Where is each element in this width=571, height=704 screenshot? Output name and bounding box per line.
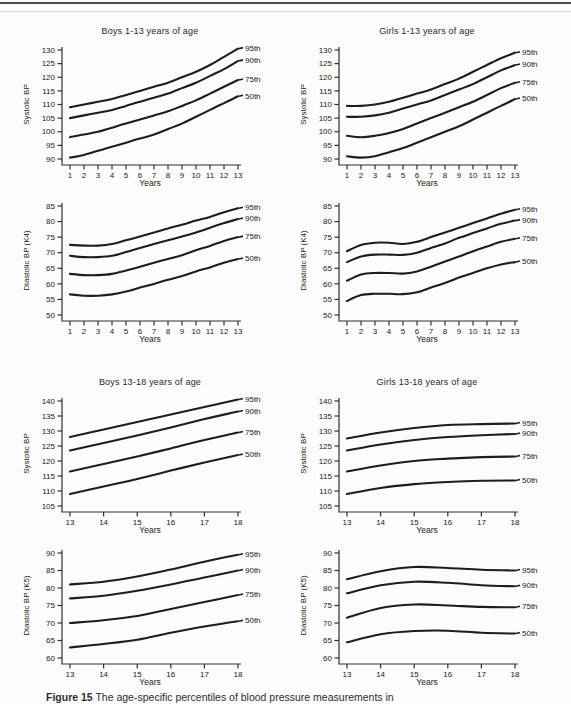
svg-text:3: 3 [96, 171, 101, 180]
svg-text:3: 3 [373, 171, 378, 180]
svg-text:50th: 50th [245, 254, 261, 263]
svg-text:Systolic BP: Systolic BP [299, 433, 308, 473]
svg-text:130: 130 [42, 46, 56, 55]
svg-text:16: 16 [443, 670, 452, 679]
svg-text:17: 17 [477, 670, 486, 679]
svg-text:95: 95 [46, 141, 55, 150]
svg-text:2: 2 [82, 171, 87, 180]
svg-text:120: 120 [319, 457, 333, 466]
svg-text:17: 17 [200, 518, 209, 527]
svg-text:Years: Years [416, 525, 437, 535]
svg-text:50th: 50th [522, 476, 538, 485]
svg-text:1: 1 [68, 327, 73, 336]
svg-text:14: 14 [99, 670, 108, 679]
svg-text:13: 13 [234, 171, 243, 180]
svg-text:Years: Years [139, 178, 160, 188]
svg-text:75: 75 [323, 233, 332, 242]
plot-boys-13-18-diastolic-k5: 60657075808590131415161718Diastolic BP (… [16, 542, 284, 688]
chart-title: Boys 1-13 years of age [16, 24, 284, 39]
svg-text:95th: 95th [245, 395, 261, 404]
svg-text:11: 11 [483, 327, 492, 336]
chart-boys-1-13-diastolic-k4: 505560657075808512345678910111213Diastol… [16, 195, 284, 345]
svg-text:130: 130 [42, 427, 56, 436]
svg-text:105: 105 [42, 502, 56, 511]
svg-text:2: 2 [359, 327, 364, 336]
plot-girls-13-18-diastolic-k5: 60657075808590131415161718Diastolic BP (… [293, 542, 561, 688]
svg-text:75th: 75th [522, 234, 538, 243]
svg-text:50th: 50th [522, 629, 538, 638]
svg-text:8: 8 [443, 171, 448, 180]
svg-text:5: 5 [401, 171, 406, 180]
svg-text:50th: 50th [245, 616, 261, 625]
top-rule [0, 2, 571, 4]
chart-boys-13-18-diastolic-k5: 60657075808590131415161718Diastolic BP (… [16, 542, 284, 688]
svg-text:75th: 75th [245, 590, 261, 599]
svg-text:5: 5 [124, 171, 129, 180]
svg-text:Years: Years [416, 677, 437, 687]
svg-text:9: 9 [457, 327, 462, 336]
svg-text:11: 11 [206, 327, 215, 336]
row-diastolic-k4-1-13: 505560657075808512345678910111213Diastol… [16, 195, 561, 345]
figure-caption: Figure 15 The age-specific percentiles o… [16, 690, 561, 704]
svg-text:50th: 50th [522, 94, 538, 103]
svg-text:95th: 95th [245, 203, 261, 212]
svg-text:60: 60 [323, 654, 332, 663]
svg-text:80: 80 [46, 217, 55, 226]
svg-text:12: 12 [220, 171, 229, 180]
svg-text:Diastolic BP (K4): Diastolic BP (K4) [299, 230, 308, 291]
plot-boys-1-13-systolic: 9095100105110115120125130123456789101112… [16, 39, 284, 189]
svg-text:70: 70 [323, 248, 332, 257]
svg-text:9: 9 [180, 327, 185, 336]
svg-text:90: 90 [323, 155, 332, 164]
svg-text:115: 115 [319, 472, 332, 481]
svg-text:115: 115 [319, 87, 332, 96]
svg-text:8: 8 [443, 327, 448, 336]
svg-text:105: 105 [42, 114, 56, 123]
svg-text:75th: 75th [522, 602, 538, 611]
svg-text:75th: 75th [522, 78, 538, 87]
svg-text:4: 4 [110, 327, 115, 336]
svg-text:2: 2 [82, 327, 87, 336]
svg-text:75th: 75th [522, 452, 538, 461]
svg-text:13: 13 [66, 670, 75, 679]
svg-text:70: 70 [46, 619, 55, 628]
svg-text:17: 17 [200, 670, 209, 679]
svg-text:65: 65 [46, 636, 55, 645]
svg-text:14: 14 [376, 670, 385, 679]
svg-text:17: 17 [477, 518, 486, 527]
svg-text:85: 85 [46, 202, 55, 211]
svg-text:1: 1 [345, 327, 350, 336]
svg-text:3: 3 [373, 327, 378, 336]
svg-text:Years: Years [139, 677, 160, 687]
svg-text:18: 18 [511, 518, 520, 527]
svg-text:95th: 95th [245, 550, 261, 559]
svg-text:120: 120 [42, 457, 56, 466]
svg-text:Systolic BP: Systolic BP [299, 84, 308, 124]
svg-text:90th: 90th [522, 429, 538, 438]
svg-text:Diastolic BP (K5): Diastolic BP (K5) [22, 575, 31, 636]
svg-text:50: 50 [323, 311, 332, 320]
svg-text:12: 12 [497, 327, 506, 336]
chart-girls-13-18-systolic: Girls 13-18 years of age 105110115120125… [293, 375, 561, 536]
svg-text:75th: 75th [245, 75, 261, 84]
svg-text:50th: 50th [245, 450, 261, 459]
svg-text:75th: 75th [245, 428, 261, 437]
svg-text:85: 85 [46, 566, 55, 575]
svg-text:1: 1 [345, 171, 350, 180]
svg-text:16: 16 [166, 518, 175, 527]
svg-text:125: 125 [319, 59, 333, 68]
svg-text:90th: 90th [522, 60, 538, 69]
svg-text:90th: 90th [245, 407, 261, 416]
plot-girls-1-13-systolic: 9095100105110115120125130123456789101112… [293, 39, 561, 189]
plot-boys-1-13-diastolic-k4: 505560657075808512345678910111213Diastol… [16, 195, 284, 345]
svg-text:50: 50 [46, 311, 55, 320]
svg-text:18: 18 [234, 518, 243, 527]
svg-text:140: 140 [319, 397, 333, 406]
figure-caption-text: The age-specific percentiles of blood pr… [95, 691, 393, 703]
svg-text:50th: 50th [245, 92, 261, 101]
svg-text:4: 4 [387, 327, 392, 336]
svg-text:Years: Years [139, 525, 160, 535]
chart-girls-1-13-diastolic-k4: 505560657075808512345678910111213Diastol… [293, 195, 561, 345]
svg-text:60: 60 [46, 280, 55, 289]
